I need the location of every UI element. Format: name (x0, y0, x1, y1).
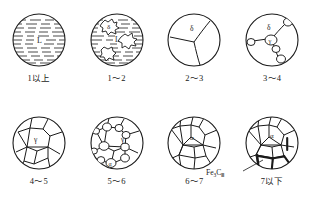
microstructure-figure: L 1以上 (0, 0, 311, 210)
phase-label-L: L (37, 36, 42, 45)
panel-2: δ L 1～2 (78, 0, 156, 105)
cementite-formula-roman: Ⅲ (221, 172, 224, 178)
panel-3-label: 2～3 (185, 73, 203, 83)
panel-6: γ α 5～6 (78, 103, 156, 208)
cementite-label: Fe3CⅢ (206, 169, 224, 179)
panel-3-disc: δ (165, 11, 223, 69)
panel-4: δ γ 3～4 (233, 0, 311, 105)
phase-label-delta: δ (267, 23, 271, 32)
panel-8-label: 7以下 (261, 176, 284, 186)
panel-1-label: 1以上 (27, 73, 50, 83)
panel-5-label: 4～5 (30, 176, 48, 186)
panel-1-disc: L (10, 11, 68, 69)
panel-row-top: L 1以上 (0, 0, 311, 105)
phase-label-gamma: γ (33, 135, 38, 144)
panel-row-bottom: γ 4～5 (0, 103, 311, 208)
phase-label-delta: δ (190, 24, 194, 33)
panel-6-disc: γ α (88, 114, 146, 172)
phase-label-gamma: γ (120, 135, 125, 144)
phase-label-alpha: α (270, 132, 274, 140)
phase-label-L: L (115, 35, 120, 44)
phase-label-gamma: γ (268, 37, 272, 44)
panel-8: α 7以下 (233, 103, 311, 208)
panel-7: α 6～7 (156, 103, 234, 208)
panel-1: L 1以上 (0, 0, 78, 105)
phase-label-alpha: α (190, 134, 194, 142)
panel-7-label: 6～7 (185, 176, 203, 186)
panel-6-label: 5～6 (108, 176, 126, 186)
panel-2-disc: δ L (88, 11, 146, 69)
panel-3: δ 2～3 (156, 0, 234, 105)
panel-7-disc: α (165, 114, 223, 172)
cementite-leader-line (243, 160, 265, 174)
panel-5: γ 4～5 (0, 103, 78, 208)
panel-4-label: 3～4 (263, 73, 281, 83)
panel-4-disc: δ γ (243, 11, 301, 69)
cementite-formula-fe: Fe (206, 168, 214, 177)
panel-5-disc: γ (10, 114, 68, 172)
panel-2-label: 1～2 (108, 73, 126, 83)
